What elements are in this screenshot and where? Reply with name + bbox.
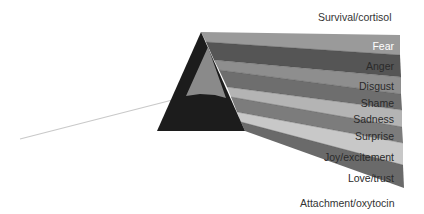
band-label-shame: Shame	[361, 98, 394, 109]
top-axis-label: Survival/cortisol	[318, 12, 392, 23]
band-label-anger: Anger	[366, 61, 394, 72]
band-label-fear: Fear	[372, 41, 394, 52]
band-label-disgust: Disgust	[359, 81, 394, 92]
band-label-love: Love/trust	[348, 173, 394, 184]
band-label-surprise: Surprise	[355, 131, 394, 142]
bottom-axis-label: Attachment/oxytocin	[300, 198, 395, 209]
band-label-joy: Joy/excitement	[324, 152, 394, 163]
light-ray	[20, 96, 188, 139]
band-label-sadness: Sadness	[353, 114, 394, 125]
